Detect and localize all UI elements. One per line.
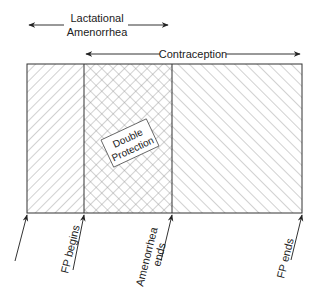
marker-fp-begins: FP begins (58, 215, 84, 274)
lactational-label-line2: Amenorrhea (67, 26, 128, 38)
lactation-contraception-diagram: Lactational Amenorrhea Contraception Dou… (0, 0, 320, 292)
lactational-amenorrhea-span: Lactational Amenorrhea (29, 12, 168, 38)
marker-amenorrhea-ends: Amenorrhea ends (133, 215, 172, 287)
marker-start (15, 215, 27, 261)
lactational-label-line1: Lactational (70, 12, 123, 24)
region-lactational-only (27, 64, 84, 213)
arrow-up-icon (15, 215, 27, 261)
fp-ends-label: FP ends (274, 237, 296, 280)
marker-fp-ends: FP ends (274, 215, 302, 279)
contraception-span: Contraception (86, 48, 300, 60)
contraception-label: Contraception (159, 48, 228, 60)
arrow-up-icon (291, 215, 302, 260)
region-contraception-only (172, 64, 302, 213)
fp-begins-label: FP begins (58, 223, 82, 274)
